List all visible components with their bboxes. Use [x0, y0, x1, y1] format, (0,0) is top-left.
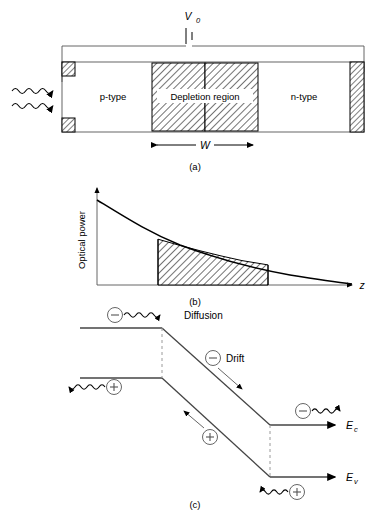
left-electrode-bottom	[62, 118, 75, 132]
panel-c-caption: (c)	[189, 499, 200, 510]
pin-photodiode-figure: V 0 Depletion region p-type n-type	[0, 0, 390, 520]
panel-a-caption: (a)	[189, 161, 201, 172]
drift-label: Drift	[226, 353, 245, 364]
right-electrode	[350, 62, 364, 132]
conduction-band-energy-label: E	[346, 419, 354, 431]
p-type-label: p-type	[100, 91, 126, 102]
conduction-band-energy-subscript: c	[354, 425, 358, 434]
figure-canvas: V 0 Depletion region p-type n-type	[0, 0, 390, 520]
left-electrode-top	[62, 62, 75, 76]
n-type-label: n-type	[291, 91, 317, 102]
valence-band-energy-label: E	[346, 471, 354, 483]
panel-b-caption: (b)	[189, 296, 201, 307]
voltage-source-label: V	[184, 10, 192, 22]
depletion-width-label: W	[200, 139, 211, 151]
z-axis-label: z	[358, 279, 365, 291]
optical-power-axis-label: Optical power	[76, 211, 87, 269]
diffusion-label: Diffusion	[184, 310, 223, 321]
depletion-region-label: Depletion region	[170, 91, 239, 102]
